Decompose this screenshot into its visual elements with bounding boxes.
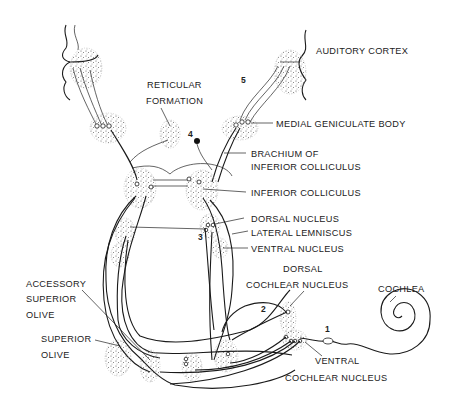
auditory-pathway-diagram: RETICULAR FORMATION AUDITORY CORTEX 5 ME… (0, 0, 450, 413)
label-brachium-2: INFERIOR COLLICULUS (251, 162, 361, 172)
label-inferior-colliculus: INFERIOR COLLICULUS (251, 188, 361, 198)
left-auditory-cortex (63, 25, 102, 100)
left-accessory-superior-olive (140, 350, 160, 382)
label-accessory-superior-olive-2: SUPERIOR (26, 294, 76, 304)
label-superior-olive-1: SUPERIOR (41, 334, 91, 344)
reticular-cell-4-axon (197, 144, 212, 170)
label-brachium-1: BRACHIUM OF (251, 149, 319, 159)
label-superior-olive-2: OLIVE (41, 350, 70, 360)
dorsal-nucleus-leader (215, 218, 244, 224)
number-5: 5 (241, 75, 246, 85)
label-medial-geniculate-body: MEDIAL GENICULATE BODY (276, 119, 406, 129)
label-reticular-formation-2: FORMATION (146, 96, 203, 106)
dorsal-cochlear-leader (290, 291, 304, 306)
right-auditory-cortex (274, 30, 306, 100)
dcn-to-ic (232, 312, 287, 340)
label-lateral-lemniscus: LATERAL LEMNISCUS (251, 228, 352, 238)
reticular-formation-region (160, 120, 180, 148)
dorsal-cochlear-nucleus (280, 302, 296, 334)
dorsal-nucleus-commissure (130, 227, 206, 229)
label-reticular-formation-1: RETICULAR (147, 80, 202, 90)
number-4: 4 (188, 129, 193, 139)
ventral-cochlear-leader (305, 342, 322, 356)
number-2: 2 (261, 304, 266, 314)
number-1: 1 (325, 324, 330, 334)
label-ventral-cochlear-2: COCHLEAR NUCLEUS (285, 373, 387, 383)
label-dorsal-nucleus: DORSAL NUCLEUS (251, 214, 339, 224)
label-dorsal-cochlear-1: DORSAL (283, 264, 323, 274)
reticular-cell-4 (194, 138, 200, 144)
label-ventral-nucleus: VENTRAL NUCLEUS (251, 244, 344, 254)
cochlea-spiral (381, 289, 430, 331)
label-auditory-cortex: AUDITORY CORTEX (316, 46, 408, 56)
label-ventral-cochlear-1: VENTRAL (315, 356, 359, 366)
number-3: 3 (198, 232, 203, 242)
auditory-nerve (300, 320, 430, 354)
lateral-lemniscus-leader (232, 231, 248, 234)
left-mgb-cells (95, 124, 111, 128)
cochlea-leader (390, 296, 396, 302)
spiral-ganglion-cell (323, 338, 333, 344)
label-cochlea: COCHLEA (378, 284, 425, 294)
label-accessory-superior-olive-1: ACCESSORY (26, 279, 86, 289)
label-dorsal-cochlear-2: COCHLEAR NUCLEUS (246, 280, 348, 290)
label-accessory-superior-olive-3: OLIVE (26, 310, 55, 320)
